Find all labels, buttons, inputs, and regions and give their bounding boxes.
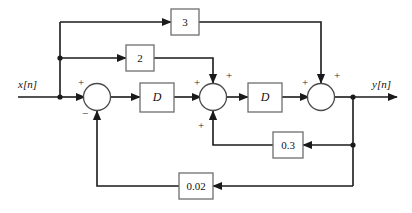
delay-block-2[interactable]: D <box>248 83 282 112</box>
gain-block-2-label: 2 <box>137 52 143 64</box>
gain-block-0p02[interactable]: 0.02 <box>179 173 213 199</box>
sign-sum2-top-plus: + <box>226 69 232 81</box>
sign-sum2-left-plus: + <box>194 76 200 88</box>
output-signal-label: y[n] <box>371 78 391 90</box>
input-signal-label: x[n] <box>17 78 37 90</box>
gain-block-2[interactable]: 2 <box>126 45 154 71</box>
gain-block-0p02-label: 0.02 <box>186 180 205 192</box>
junction-dot-output-main <box>350 94 355 99</box>
wire-gain3-to-sum3 <box>199 22 321 83</box>
summing-junction-3[interactable] <box>308 84 335 111</box>
junction-dot-input-main <box>57 94 62 99</box>
wire-gain0p3-to-sum2 <box>213 111 273 145</box>
gain-block-3[interactable]: 3 <box>171 9 199 35</box>
delay-block-1[interactable]: D <box>140 83 174 112</box>
block-diagram-canvas: 3 2 D D 0.3 0.02 <box>0 0 412 213</box>
wire-gain2-to-sum2 <box>154 58 213 83</box>
gain-block-3-label: 3 <box>182 16 188 28</box>
gain-block-0p3-label: 0.3 <box>281 139 295 151</box>
sign-sum1-bottom-minus: − <box>82 107 88 119</box>
delay-block-2-label: D <box>260 90 270 104</box>
gain-block-0p3[interactable]: 0.3 <box>273 132 303 158</box>
sign-sum1-left-plus: + <box>78 76 84 88</box>
sign-sum3-top-plus: + <box>334 69 340 81</box>
junction-dot-input-gain2 <box>57 55 62 60</box>
wire-gain0p02-to-sum1 <box>97 111 179 186</box>
sign-sum3-left-plus: + <box>302 76 308 88</box>
summing-junction-2[interactable] <box>200 84 227 111</box>
delay-block-1-label: D <box>152 90 162 104</box>
sign-sum2-bottom-plus: + <box>198 119 204 131</box>
block-diagram-svg: 3 2 D D 0.3 0.02 <box>0 0 412 213</box>
